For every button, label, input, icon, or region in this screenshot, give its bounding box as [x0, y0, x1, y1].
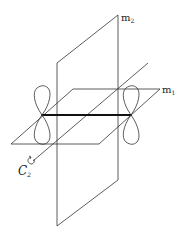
c2-axis-line	[33, 63, 148, 161]
label-c2: C2	[18, 164, 31, 178]
label-m1: m1	[162, 84, 175, 96]
mirror-plane-m2	[57, 15, 118, 226]
label-m2: m2	[121, 12, 134, 24]
orbital-lobe-upper	[123, 86, 139, 115]
orbital-lobe-upper	[34, 86, 50, 115]
orbital-lobe-lower	[34, 115, 50, 144]
symmetry-diagram: m2 m1 C2	[0, 0, 186, 231]
orbital-lobe-lower	[123, 115, 139, 144]
